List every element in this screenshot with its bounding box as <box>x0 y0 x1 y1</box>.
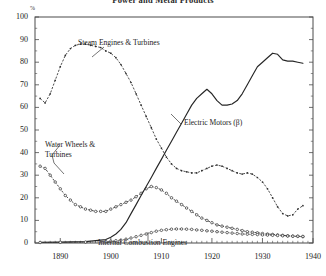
x-tick-1920: 1920 <box>192 253 232 261</box>
y-tick-50: 50 <box>2 126 28 134</box>
series-label-water-line1: Water Wheels & <box>45 140 95 149</box>
series-label-water: Water Wheels & Turbines <box>45 140 95 159</box>
y-tick-80: 80 <box>2 58 28 66</box>
x-tick-1890: 1890 <box>40 253 80 261</box>
y-tick-60: 60 <box>2 103 28 111</box>
y-tick-0: 0 <box>2 239 28 247</box>
y-tick-40: 40 <box>2 149 28 157</box>
y-tick-90: 90 <box>2 36 28 44</box>
y-tick-10: 10 <box>2 216 28 224</box>
x-tick-1930: 1930 <box>242 253 282 261</box>
series-label-internal-combustion: Internal Combustion Engines <box>98 238 187 248</box>
chart-canvas <box>0 0 326 276</box>
x-tick-1910: 1910 <box>141 253 181 261</box>
series-1 <box>39 165 304 238</box>
plot-frame <box>35 17 313 243</box>
y-tick-70: 70 <box>2 81 28 89</box>
series-label-electric: Electric Motors (β) <box>184 118 242 128</box>
series-label-water-line2: Turbines <box>45 150 72 159</box>
y-tick-20: 20 <box>2 194 28 202</box>
x-tick-1940: 1940 <box>293 253 326 261</box>
y-tick-100: 100 <box>2 13 28 21</box>
y-tick-30: 30 <box>2 171 28 179</box>
chart-figure: Power and Metal Products % Steam Engines… <box>0 0 326 276</box>
series-label-steam: Steam Engines & Turbines <box>78 38 160 48</box>
series-0 <box>39 43 304 216</box>
x-tick-1900: 1900 <box>91 253 131 261</box>
